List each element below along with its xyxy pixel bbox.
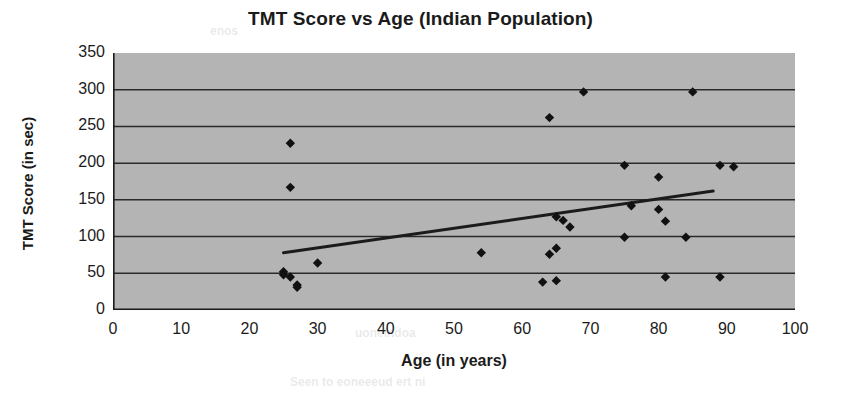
x-axis-tick-label: 100	[775, 320, 815, 338]
scan-ghost-bottom: Seen to eoneeeud ert ni	[290, 375, 425, 389]
tmt-score-vs-age-scatter-chart: enos uoneindoa Seen to eoneeeud ert ni T…	[0, 0, 841, 396]
y-axis-tick-label: 350	[59, 43, 105, 61]
x-axis-tick-label: 30	[298, 320, 338, 338]
y-axis-tick-label: 250	[59, 116, 105, 134]
plot-area	[113, 53, 795, 310]
x-axis-title: Age (in years)	[113, 352, 795, 370]
x-axis-tick-label: 80	[639, 320, 679, 338]
x-axis-tick-label: 40	[366, 320, 406, 338]
y-axis-tick-label: 150	[59, 190, 105, 208]
x-axis-tick-label: 90	[707, 320, 747, 338]
x-axis-tick-label: 20	[229, 320, 269, 338]
x-axis-tick-label: 70	[570, 320, 610, 338]
x-axis-tick-label: 10	[161, 320, 201, 338]
x-axis-tick-label: 60	[502, 320, 542, 338]
y-axis-tick-label: 200	[59, 153, 105, 171]
y-axis-tick-label: 300	[59, 80, 105, 98]
y-axis-tick-label: 100	[59, 227, 105, 245]
x-axis-tick-label: 50	[434, 320, 474, 338]
y-axis-tick-label: 0	[59, 300, 105, 318]
y-axis-tick-label: 50	[59, 263, 105, 281]
y-axis-title: TMT Score (in sec)	[19, 84, 36, 284]
chart-title: TMT Score vs Age (Indian Population)	[0, 8, 841, 30]
plot-svg	[113, 53, 795, 310]
x-axis-tick-label: 0	[93, 320, 133, 338]
